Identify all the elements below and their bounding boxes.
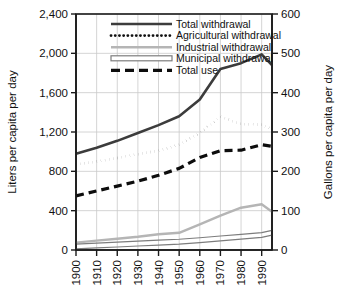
x-axis-tick-label: 1930: [132, 260, 144, 286]
y-axis-left-tick-label: 1,600: [39, 87, 68, 99]
x-axis-tick-label: 1990: [256, 260, 268, 286]
y-axis-left-tick-label: 0: [62, 244, 68, 256]
x-axis-tick-label: 1920: [111, 260, 123, 286]
y-axis-right-tick-label: 100: [281, 205, 300, 217]
x-axis-tick-label: 1940: [153, 260, 165, 286]
y-axis-right-tick-label: 200: [281, 165, 300, 177]
line-chart-figure: 1900191019201930194019501960197019801990…: [0, 0, 344, 303]
x-axis-tick-label: 1970: [214, 260, 226, 286]
x-axis-tick-label: 1960: [194, 260, 206, 286]
y-axis-left-title: Liters per capita per day: [6, 70, 18, 194]
y-axis-left-tick-label: 1,200: [39, 126, 68, 138]
legend-label-municipal-withdrawal: Municipal withdrawal: [176, 52, 273, 64]
y-axis-left-tick-label: 400: [49, 205, 68, 217]
legend-label-industrial-withdrawal: Industrial withdrawal: [176, 41, 271, 53]
legend-label-agricultural-withdrawal: Agricultural withdrawal: [176, 29, 281, 41]
chart-container: 1900191019201930194019501960197019801990…: [0, 0, 344, 303]
x-axis-tick-label: 1910: [91, 260, 103, 286]
y-axis-right-tick-label: 300: [281, 126, 300, 138]
y-axis-right-tick-label: 600: [281, 8, 300, 20]
y-axis-right-title: Gallons per capita per day: [322, 65, 334, 199]
y-axis-right-tick-label: 400: [281, 87, 300, 99]
y-axis-right-tick-label: 500: [281, 47, 300, 59]
y-axis-left-tick-label: 800: [49, 165, 68, 177]
legend-swatch-municipal-withdrawal: [111, 56, 172, 61]
x-axis-tick-label: 1980: [235, 260, 247, 286]
y-axis-left-tick-label: 2,400: [39, 8, 68, 20]
legend-label-total-use: Total use: [176, 64, 218, 76]
chart-background: [0, 0, 344, 303]
y-axis-left-tick-label: 2,000: [39, 47, 68, 59]
legend-label-total-withdrawal: Total withdrawal: [176, 18, 251, 30]
y-axis-right-tick-label: 0: [281, 244, 287, 256]
x-axis-tick-label: 1900: [70, 260, 82, 286]
x-axis-tick-label: 1950: [173, 260, 185, 286]
